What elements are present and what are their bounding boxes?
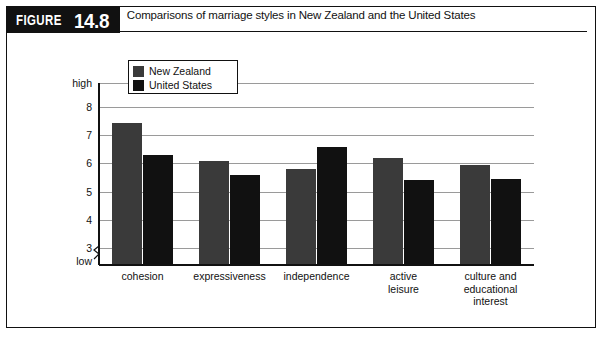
x-axis-line xyxy=(99,264,534,266)
bar-united-states xyxy=(230,175,260,265)
axis-break-icon xyxy=(92,245,106,261)
bar-new-zealand xyxy=(373,158,403,265)
category-label-line: interest xyxy=(437,295,544,308)
category-label-line: culture and xyxy=(437,270,544,283)
y-tick-label: 8 xyxy=(52,101,92,113)
category-label: culture andeducationalinterest xyxy=(437,270,544,308)
bar-united-states xyxy=(491,179,521,265)
legend-item: United States xyxy=(133,79,212,91)
legend-item: New Zealand xyxy=(133,65,211,77)
y-tick-label: 7 xyxy=(52,129,92,141)
legend-swatch-icon xyxy=(133,66,144,77)
bar-group xyxy=(286,83,347,265)
bar-group xyxy=(199,83,260,265)
y-tick-label: low xyxy=(52,255,92,267)
y-axis-line xyxy=(98,83,100,265)
bar-group xyxy=(460,83,521,265)
bar-group xyxy=(112,83,173,265)
legend-label: United States xyxy=(149,79,212,91)
figure-page: FIGURE 14.8 Comparisons of marriage styl… xyxy=(0,0,604,337)
legend-swatch-icon xyxy=(133,80,144,91)
y-tick-label: 6 xyxy=(52,157,92,169)
y-tick-label: 4 xyxy=(52,214,92,226)
y-tick-label: 3 xyxy=(52,242,92,254)
legend-label: New Zealand xyxy=(149,65,211,77)
bar-new-zealand xyxy=(460,165,490,265)
chart-legend: New ZealandUnited States xyxy=(128,60,238,94)
plot-area xyxy=(99,83,534,265)
bar-united-states xyxy=(404,180,434,265)
y-tick-label: high xyxy=(52,77,92,89)
header-divider xyxy=(103,31,587,32)
y-tick-label: 5 xyxy=(52,186,92,198)
y-axis-labels: high876543low xyxy=(48,0,92,337)
bar-united-states xyxy=(143,155,173,265)
category-label-line: educational xyxy=(437,283,544,296)
bar-new-zealand xyxy=(286,169,316,265)
bar-group xyxy=(373,83,434,265)
bar-new-zealand xyxy=(199,161,229,265)
bar-new-zealand xyxy=(112,123,142,265)
bar-united-states xyxy=(317,147,347,266)
